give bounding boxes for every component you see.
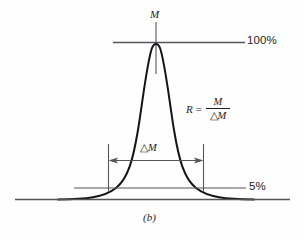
width-label-symbol: M: [148, 142, 157, 153]
peak-label-m: M: [150, 9, 159, 20]
hundred-percent-label: 100%: [247, 35, 277, 47]
five-percent-label: 5%: [249, 181, 266, 193]
formula-equals-sign: =: [196, 103, 202, 115]
formula-fraction: M △M: [206, 96, 230, 122]
figure-caption: (b): [143, 212, 156, 223]
formula-lhs: R: [186, 103, 193, 115]
formula-denominator-symbol: M: [218, 110, 227, 121]
resolution-formula: R = M △M: [186, 96, 230, 122]
figure-container: M 100% 5% △M R = M △M (b): [0, 0, 305, 241]
formula-fraction-bar: [206, 108, 230, 109]
delta-glyph-icon: △: [140, 142, 148, 153]
formula-denominator-delta-glyph-icon: △: [210, 110, 218, 121]
formula-numerator: M: [211, 96, 226, 107]
width-label-delta-m: △M: [140, 143, 157, 154]
formula-denominator: △M: [207, 110, 230, 121]
